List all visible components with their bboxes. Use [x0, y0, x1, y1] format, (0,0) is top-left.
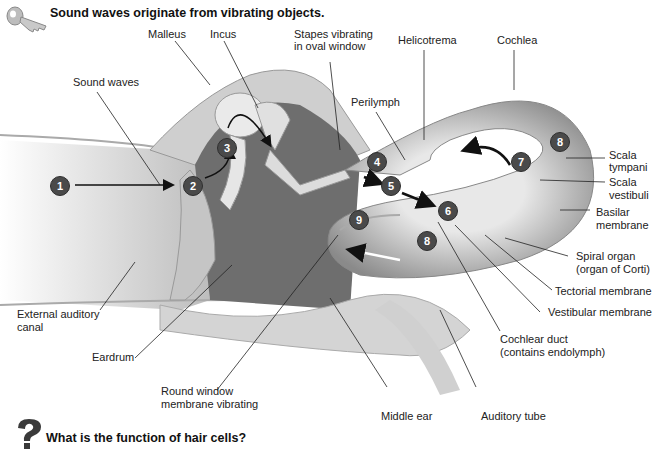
- label-cochlea: Cochlea: [497, 34, 537, 47]
- step-badge-9: 9: [349, 210, 369, 230]
- step-badge-5: 5: [381, 176, 401, 196]
- step-badge-8-upper: 8: [550, 132, 570, 152]
- label-basilar-1: Basilar: [596, 206, 630, 219]
- label-spiral-organ-1: Spiral organ: [576, 250, 635, 263]
- ear-anatomy-illustration: [0, 0, 664, 449]
- label-middle-ear: Middle ear: [381, 410, 432, 423]
- step-badge-7: 7: [511, 152, 531, 172]
- label-scala-vestibuli-1: Scala: [609, 176, 637, 189]
- step-badge-4: 4: [367, 152, 387, 172]
- label-spiral-organ-2: (organ of Corti): [576, 263, 650, 276]
- question-mark-icon: [14, 418, 44, 449]
- step-badge-1: 1: [50, 176, 70, 196]
- label-cochlear-duct-1: Cochlear duct: [500, 333, 568, 346]
- label-vestibular-membrane: Vestibular membrane: [548, 306, 652, 319]
- label-malleus: Malleus: [148, 28, 186, 41]
- label-round-window-2: membrane vibrating: [161, 398, 258, 411]
- label-scala-tympani-2: tympani: [609, 161, 648, 174]
- review-question: What is the function of hair cells?: [46, 431, 246, 445]
- label-basilar-2: membrane: [596, 219, 649, 232]
- label-stapes-2: in oval window: [294, 40, 366, 53]
- label-external-auditory-canal-1: External auditory: [17, 308, 100, 321]
- step-badge-2: 2: [183, 176, 203, 196]
- label-tectorial-membrane: Tectorial membrane: [555, 285, 652, 298]
- label-external-auditory-canal-2: canal: [17, 321, 43, 334]
- label-scala-vestibuli-2: vestibuli: [609, 189, 649, 202]
- label-cochlear-duct-2: (contains endolymph): [500, 346, 605, 359]
- step-badge-6: 6: [438, 201, 458, 221]
- label-round-window-1: Round window: [161, 385, 233, 398]
- label-incus: Incus: [210, 28, 236, 41]
- label-perilymph: Perilymph: [351, 96, 400, 109]
- label-auditory-tube: Auditory tube: [481, 410, 546, 423]
- step-badge-8-lower: 8: [417, 231, 437, 251]
- step-badge-3: 3: [217, 138, 237, 158]
- label-sound-waves: Sound waves: [73, 76, 139, 89]
- label-eardrum: Eardrum: [92, 351, 134, 364]
- label-helicotrema: Helicotrema: [398, 34, 457, 47]
